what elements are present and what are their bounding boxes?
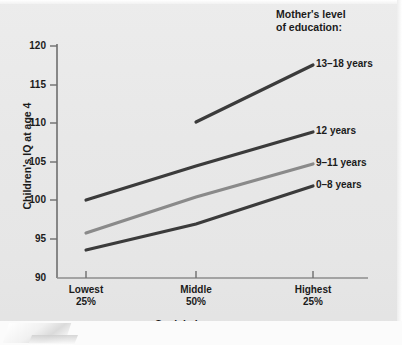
series-line-13-18-years — [196, 65, 313, 122]
legend-title-line1: Mother's level — [276, 8, 346, 20]
y-tick-marks — [50, 46, 57, 239]
x-category-middle-line1: Middle — [180, 284, 212, 295]
x-category-lowest: Lowest 25% — [46, 284, 126, 308]
x-tick-marks — [86, 271, 313, 278]
legend-item-12-years[interactable]: 12 years — [316, 125, 356, 136]
x-category-lowest-line2: 25% — [76, 296, 96, 307]
x-category-middle: Middle 50% — [156, 284, 236, 308]
legend-item-0-8-years[interactable]: 0–8 years — [316, 179, 362, 190]
legend-title: Mother's level of education: — [276, 8, 394, 34]
figure-page: Mother's level of education: 13–18 years… — [0, 0, 402, 345]
x-category-highest-line1: Highest — [295, 284, 332, 295]
x-category-highest-line2: 25% — [303, 296, 323, 307]
y-axis-label: Children's IQ at age 4 — [21, 86, 33, 226]
y-tick-label-95: 95 — [14, 233, 46, 244]
y-tick-label-90: 90 — [14, 272, 46, 283]
page-curl-shadow-artifact — [28, 335, 78, 345]
line-chart: Mother's level of education: 13–18 years… — [0, 0, 402, 345]
y-tick-label-120: 120 — [14, 40, 46, 51]
legend-item-9-11-years[interactable]: 9–11 years — [316, 157, 367, 168]
series-line-12-years — [86, 132, 313, 200]
legend-item-13-18-years[interactable]: 13–18 years — [316, 58, 373, 69]
x-category-highest: Highest 25% — [273, 284, 353, 308]
x-category-lowest-line1: Lowest — [69, 284, 103, 295]
legend-title-line2: of education: — [276, 21, 342, 33]
x-category-middle-line2: 50% — [186, 296, 206, 307]
